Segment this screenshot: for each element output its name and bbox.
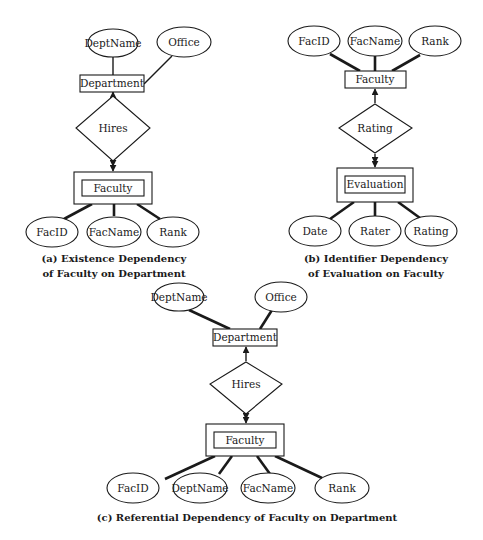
connector-office-department [144,56,172,84]
connector-faculty-deptname [219,456,232,474]
svg-text:Rating: Rating [413,225,449,237]
svg-text:Faculty: Faculty [356,73,395,85]
attribute-facname: FacName [87,217,141,247]
attribute-deptname: DeptName [150,283,207,311]
entity-department: Department [213,329,278,346]
caption-c: (c) Referential Dependency of Faculty on… [97,512,398,523]
svg-text:FacName: FacName [350,35,400,47]
connector-faculty-facname [257,456,270,474]
attribute-deptname: DeptName [171,473,228,503]
attribute-facid: FacID [107,473,159,503]
panel-a-existence-dependency: DeptName Office Department Hires Faculty… [26,27,211,279]
svg-text:Faculty: Faculty [226,434,265,446]
attribute-facid: FacID [288,26,340,56]
weak-entity-evaluation: Evaluation [337,168,413,202]
svg-text:Faculty: Faculty [94,182,133,194]
relationship-rating: Rating [339,104,412,153]
connector-rank-faculty [392,55,420,71]
attribute-deptname: DeptName [84,29,141,57]
svg-text:DeptName: DeptName [171,482,228,494]
svg-text:FacName: FacName [243,482,293,494]
attribute-facname: FacName [241,473,295,503]
svg-text:FacName: FacName [89,226,139,238]
attribute-office: Office [255,282,307,312]
attribute-date: Date [289,216,341,246]
svg-text:Hires: Hires [98,122,127,134]
connector-evaluation-rating [398,202,420,218]
svg-text:Office: Office [168,36,200,48]
connector-faculty-facid [64,204,92,219]
weak-entity-faculty: Faculty [74,172,152,204]
svg-text:DeptName: DeptName [150,291,207,303]
relationship-hires: Hires [210,362,282,414]
attribute-rater: Rater [349,216,401,246]
svg-text:Rating: Rating [357,122,393,134]
caption-b-line2: of Evaluation on Faculty [308,268,445,279]
relationship-hires: Hires [76,96,150,161]
svg-text:Rater: Rater [360,225,391,237]
caption-a-line1: (a) Existence Dependency [42,253,188,264]
connector-faculty-rank [137,204,160,219]
entity-department: Department [80,75,145,92]
weak-entity-faculty: Faculty [206,424,284,456]
svg-text:Date: Date [302,225,327,237]
connector-office-department [260,310,272,329]
panel-b-identifier-dependency: FacID FacName Rank Faculty Rating Evalua… [288,26,461,279]
connector-facid-faculty [330,54,360,71]
svg-text:DeptName: DeptName [84,37,141,49]
attribute-rating: Rating [405,216,457,246]
caption-a-line2: of Faculty on Department [42,268,186,279]
panel-c-referential-dependency: DeptName Office Department Hires Faculty… [97,282,398,523]
er-diagram-figure: DeptName Office Department Hires Faculty… [0,0,483,540]
svg-text:FacID: FacID [298,35,329,47]
svg-text:Rank: Rank [159,226,187,238]
entity-faculty: Faculty [345,71,406,88]
attribute-rank: Rank [409,26,461,56]
connector-deptname-department [189,310,230,329]
svg-text:FacID: FacID [36,226,67,238]
connector-evaluation-date [330,202,354,219]
attribute-facname: FacName [348,26,402,56]
attribute-facid: FacID [26,217,78,247]
svg-text:Department: Department [213,331,278,343]
svg-text:Office: Office [265,291,297,303]
svg-text:Department: Department [80,77,145,89]
svg-text:FacID: FacID [117,482,148,494]
attribute-rank: Rank [315,473,369,503]
caption-b-line1: (b) Identifier Dependency [304,253,449,264]
attribute-office: Office [157,27,211,57]
svg-text:Hires: Hires [231,378,260,390]
svg-text:Rank: Rank [328,482,356,494]
svg-text:Rank: Rank [421,35,449,47]
attribute-rank: Rank [147,217,199,247]
svg-text:Evaluation: Evaluation [347,178,404,190]
